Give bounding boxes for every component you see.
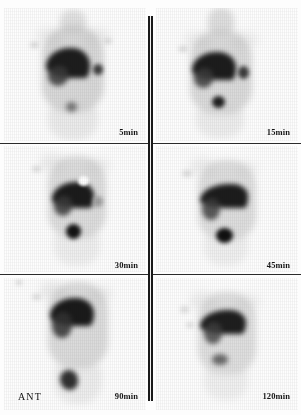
scintigraphy-image-sheet: 5min 15min bbox=[0, 0, 301, 415]
film-grain bbox=[4, 146, 146, 272]
time-label-45min: 45min bbox=[267, 260, 290, 270]
panel-15min: 15min bbox=[156, 8, 298, 141]
film-grain bbox=[156, 8, 298, 141]
time-label-15min: 15min bbox=[267, 127, 290, 137]
vertical-divider bbox=[148, 16, 153, 401]
scan-image-5min bbox=[4, 8, 146, 141]
scan-image-30min bbox=[4, 146, 146, 272]
panel-120min: 120min bbox=[156, 278, 298, 410]
panel-30min: 30min bbox=[4, 146, 146, 272]
film-grain bbox=[156, 146, 298, 272]
film-grain bbox=[4, 8, 146, 141]
panel-90min: ANT 90min bbox=[4, 278, 146, 410]
scan-image-15min bbox=[156, 8, 298, 141]
panel-45min: 45min bbox=[156, 146, 298, 272]
time-label-120min: 120min bbox=[262, 391, 290, 401]
scan-image-45min bbox=[156, 146, 298, 272]
time-label-30min: 30min bbox=[115, 260, 138, 270]
time-label-90min: 90min bbox=[115, 391, 138, 401]
panel-5min: 5min bbox=[4, 8, 146, 141]
view-label-ant: ANT bbox=[18, 391, 42, 402]
time-label-5min: 5min bbox=[119, 127, 138, 137]
